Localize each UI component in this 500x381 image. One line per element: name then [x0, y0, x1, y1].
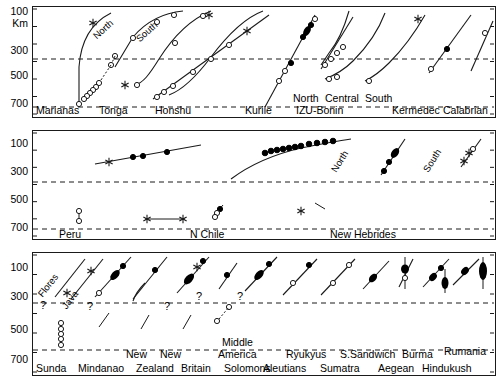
zone-label-new-zealand-top: New — [126, 348, 147, 360]
data-point-open-circle — [76, 208, 81, 213]
data-point-star — [121, 81, 128, 89]
zone-label-mindanao: Mindanao — [78, 362, 124, 374]
zone-label-marianas: Marianas — [36, 104, 79, 116]
data-point-open-circle — [340, 44, 345, 49]
data-point-filled-circle — [298, 143, 304, 149]
p3-qmark-2: ? — [87, 300, 93, 312]
data-point-filled-circle — [314, 140, 320, 146]
p1-label-north-izu: North — [293, 92, 319, 104]
p2-tick-700: 700 — [0, 222, 28, 233]
p1-tick-500: 500 — [0, 70, 28, 81]
data-point-open-circle — [322, 62, 327, 67]
p3-tick-500: 500 — [0, 324, 28, 335]
data-point-filled-blob — [460, 266, 471, 277]
data-point-open-circle — [282, 68, 287, 73]
data-point-open-circle — [200, 13, 205, 18]
p3-qmark-1: ? — [40, 299, 46, 311]
p1-unit-km: Km — [0, 17, 28, 29]
data-point-open-circle — [96, 290, 101, 295]
zone-label-ryukyus: Ryukyus — [286, 348, 326, 360]
data-point-open-circle — [470, 146, 475, 151]
p2-tick-500: 500 — [0, 194, 28, 205]
zone-label-sunda: Sunda — [36, 362, 66, 374]
zone-label-honshu: Honshu — [155, 104, 191, 116]
trace-line — [219, 307, 229, 319]
data-point-open-circle — [212, 214, 217, 219]
data-point-filled-circle — [130, 154, 135, 159]
data-point-filled-blob — [479, 262, 487, 280]
trace-line — [183, 315, 191, 329]
data-point-filled-circle — [308, 22, 313, 27]
p1-label-south-izu: South — [365, 92, 392, 104]
data-point-open-circle — [208, 56, 213, 61]
data-point-star — [297, 207, 304, 215]
zone-label-sumatra: Sumatra — [320, 362, 360, 374]
data-point-filled-circle — [330, 138, 336, 144]
slab-curve — [135, 11, 211, 85]
data-point-filled-circle — [268, 148, 274, 154]
p1-tick-100: 100 — [0, 6, 28, 17]
data-point-filled-circle — [224, 272, 229, 277]
data-point-open-circle — [172, 40, 177, 45]
data-point-open-circle — [334, 74, 339, 79]
data-point-open-circle — [366, 78, 371, 83]
data-point-open-circle — [58, 320, 63, 325]
panel-2-plot — [33, 131, 495, 239]
trace-line — [315, 203, 325, 209]
data-point-open-circle — [346, 262, 351, 267]
zone-label-hindukush: Hindukush — [422, 362, 472, 374]
data-point-filled-circle — [286, 145, 292, 151]
zone-label-america: America — [218, 348, 257, 360]
data-point-open-circle — [58, 331, 63, 336]
p3-tick-100: 100 — [0, 262, 28, 273]
data-point-filled-circle — [386, 159, 391, 164]
data-point-open-circle — [76, 218, 81, 223]
data-point-open-circle — [328, 56, 333, 61]
data-point-open-circle — [276, 78, 281, 83]
data-point-filled-circle — [152, 267, 157, 272]
data-point-open-circle — [482, 30, 487, 35]
data-point-open-circle — [58, 326, 63, 331]
data-point-filled-blob — [401, 265, 409, 274]
zone-label-aleutians: Aleutians — [263, 362, 306, 374]
zone-label-zealand: Zealand — [136, 362, 174, 374]
data-point-filled-circle — [262, 150, 268, 156]
data-point-filled-circle — [288, 60, 293, 65]
data-point-open-circle — [290, 280, 295, 285]
data-point-filled-circle — [438, 265, 443, 270]
data-point-open-circle — [428, 66, 433, 71]
p3-tick-700: 700 — [0, 354, 28, 365]
trace-line — [99, 313, 109, 327]
zone-label-tonga: Tonga — [99, 104, 128, 116]
zone-label-new-britain-top: New — [160, 348, 181, 360]
data-point-open-circle — [154, 94, 159, 99]
zone-label-rumania: Rumania — [444, 345, 486, 357]
p1-tick-300: 300 — [0, 45, 28, 56]
data-point-star — [243, 27, 250, 35]
zone-label-kurile: Kurile — [245, 104, 272, 116]
slab-curve — [321, 11, 349, 65]
data-point-star — [89, 19, 96, 27]
zone-label-peru: Peru — [59, 228, 81, 240]
zone-label-newhebrides: New Hebrides — [330, 228, 396, 240]
data-point-filled-circle — [292, 144, 298, 150]
data-point-filled-circle — [120, 263, 125, 268]
data-point-star — [460, 157, 467, 165]
figure-root: 100 Km 300 500 700 Marianas Tonga Honshu… — [0, 0, 500, 381]
data-point-filled-circle — [444, 46, 449, 51]
data-point-open-circle — [58, 342, 63, 347]
slab-curve — [365, 15, 425, 81]
zone-label-calabrian: Calabrian — [443, 104, 488, 116]
trace-line — [471, 21, 493, 71]
data-point-open-circle — [226, 42, 231, 47]
panel-2 — [32, 130, 496, 240]
zone-label-britain: Britain — [181, 362, 211, 374]
data-point-filled-blob — [252, 268, 265, 281]
p1-label-central-izu: Central — [325, 92, 359, 104]
data-point-filled-circle — [280, 146, 286, 152]
data-point-open-circle — [326, 76, 331, 81]
data-point-open-circle — [81, 96, 86, 101]
p3-qmark-3: ? — [164, 300, 170, 312]
zone-label-aegean: Aegean — [378, 362, 414, 374]
zone-label-burma: Burma — [402, 348, 433, 360]
